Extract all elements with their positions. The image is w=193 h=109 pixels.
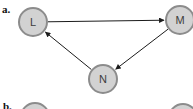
node-label-N: N [99,73,107,85]
diagram-canvas: LMN a. b. [0,0,193,109]
node-circle-b-left [21,103,49,109]
graph-svg: LMN [0,0,193,109]
node-b-left [21,103,49,109]
edges-group [45,20,168,69]
edge-N-to-L [45,32,91,69]
node-M: M [166,6,193,34]
edge-L-to-M [48,20,164,22]
section-a-label: a. [2,4,10,15]
node-circle-b-right [169,104,193,109]
node-b-right [169,104,193,109]
node-label-M: M [175,14,184,26]
edge-M-to-N [116,29,168,69]
node-label-L: L [30,16,36,28]
node-N: N [89,65,117,93]
section-b-label: b. [3,101,12,109]
node-L: L [19,8,47,36]
